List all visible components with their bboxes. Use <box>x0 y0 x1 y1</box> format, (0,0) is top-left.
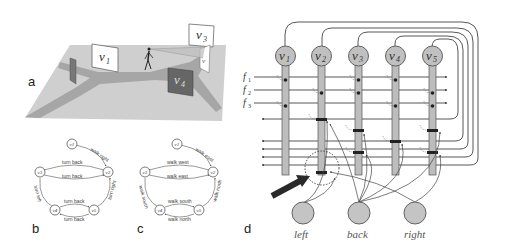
panel-label-b: b <box>32 221 39 236</box>
edge-v2-v3-top <box>44 165 104 170</box>
neuron-v4: v 4 <box>386 46 406 175</box>
svg-text:v3: v3 <box>38 170 43 175</box>
action-neuron-left <box>292 202 314 224</box>
svg-text:v: v <box>389 48 395 63</box>
edge-v2-v3-top <box>149 165 209 170</box>
svg-text:f: f <box>243 71 247 82</box>
panel-label-d: d <box>244 221 251 236</box>
recurrent-loops <box>262 22 478 165</box>
feature-synapse-hooks <box>277 75 431 106</box>
view-v4: v 4 <box>168 68 193 96</box>
edge-v4-v5-top <box>165 204 194 207</box>
svg-text:walk north: walk north <box>211 178 223 202</box>
view-v5 <box>70 58 76 84</box>
action-back: back <box>347 202 370 240</box>
svg-text:walk north: walk north <box>168 216 191 222</box>
svg-text:walk east: walk east <box>194 146 215 163</box>
svg-text:turn back: turn back <box>62 159 83 165</box>
svg-text:f: f <box>243 84 247 95</box>
svg-text:3: 3 <box>248 103 251 109</box>
svg-text:v2: v2 <box>211 170 216 175</box>
svg-text:v2: v2 <box>106 170 111 175</box>
panel-a: a v 1 v 3 v v 4 <box>25 24 226 121</box>
svg-text:1: 1 <box>286 55 290 64</box>
svg-text:right: right <box>404 228 426 240</box>
neuron-v2: v 2 <box>312 46 332 175</box>
svg-text:v4: v4 <box>53 208 58 213</box>
svg-text:walk right: walk right <box>89 146 110 163</box>
svg-text:v5: v5 <box>197 208 202 213</box>
svg-text:back: back <box>347 228 369 240</box>
neuron-columns: v 1 v 2 v 3 v 4 <box>276 46 443 175</box>
svg-text:5: 5 <box>433 55 437 64</box>
svg-text:v: v <box>426 48 432 63</box>
svg-text:1: 1 <box>248 77 251 83</box>
svg-text:v4: v4 <box>158 208 163 213</box>
svg-text:4: 4 <box>181 80 185 89</box>
svg-text:turn left: turn left <box>33 185 43 203</box>
svg-text:turn back: turn back <box>64 216 85 222</box>
svg-text:1: 1 <box>106 57 110 66</box>
view-v3: v 3 <box>189 24 214 47</box>
svg-text:v: v <box>352 48 358 63</box>
action-neuron-right <box>404 202 426 224</box>
svg-text:walk east: walk east <box>167 173 188 179</box>
svg-text:walk south: walk south <box>168 198 192 204</box>
panel-d: d f 1 f 2 f 3 v 1 <box>243 22 478 240</box>
svg-text:3: 3 <box>202 35 207 44</box>
neuron-v3: v 3 <box>349 46 369 175</box>
svg-text:v1: v1 <box>175 142 180 147</box>
panel-label-a: a <box>28 74 36 89</box>
svg-text:f: f <box>243 97 247 108</box>
svg-text:3: 3 <box>358 55 363 64</box>
svg-text:turn back: turn back <box>64 198 85 204</box>
svg-text:v3: v3 <box>143 170 148 175</box>
svg-text:turn back: turn back <box>62 173 83 179</box>
svg-text:v: v <box>315 48 321 63</box>
figure-canvas: a v 1 v 3 v v 4 <box>0 0 505 250</box>
svg-text:v: v <box>196 27 202 42</box>
svg-text:left: left <box>294 228 309 240</box>
panel-c: c v1 v2 v3 v4 v5 walk east walk west wal… <box>137 139 223 236</box>
svg-text:v: v <box>279 48 285 63</box>
neuron-v1: v 1 <box>276 46 296 175</box>
action-neuron-back <box>348 202 370 224</box>
edge-v4-v5-top <box>60 204 89 207</box>
action-left: left <box>292 202 314 240</box>
svg-text:v: v <box>99 49 105 64</box>
neuron-v5: v 5 <box>423 46 443 175</box>
panel-b: b v1 v2 v3 v4 v5 walk right turn back tu… <box>32 139 117 236</box>
action-right: right <box>404 202 426 240</box>
panel-label-c: c <box>137 221 144 236</box>
svg-text:turn right: turn right <box>106 179 117 200</box>
svg-text:2: 2 <box>248 90 251 96</box>
view-v1: v 1 <box>92 44 118 72</box>
svg-text:v: v <box>174 72 180 87</box>
svg-text:walk west: walk west <box>167 159 189 165</box>
gated-synapses <box>316 118 438 174</box>
highlight-arrow <box>272 175 310 196</box>
svg-text:4: 4 <box>396 55 400 64</box>
svg-text:2: 2 <box>322 55 326 64</box>
svg-text:v5: v5 <box>92 208 97 213</box>
svg-text:v1: v1 <box>70 142 75 147</box>
